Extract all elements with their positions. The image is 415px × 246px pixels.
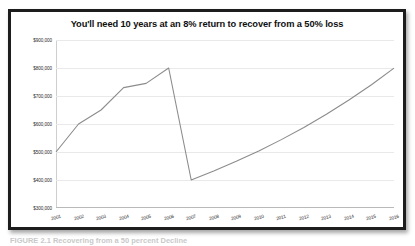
- x-axis-tick-label: 2014: [343, 214, 354, 222]
- y-axis-tick-label: $500,000: [33, 150, 52, 155]
- x-axis-tick-label: 2007: [186, 214, 197, 222]
- series-line-portfolio-value: [56, 40, 394, 208]
- x-axis-tick-label: 2015: [366, 214, 377, 222]
- figure-frame: You'll need 10 years at an 8% return to …: [8, 9, 406, 230]
- y-axis-tick-label: $800,000: [33, 66, 52, 71]
- figure-caption: FIGURE 2.1 Recovering from a 50 percent …: [10, 236, 310, 245]
- x-axis-tick-label: 2009: [231, 214, 242, 222]
- y-axis-tick-label: $900,000: [33, 38, 52, 43]
- x-axis-tick-label: 2013: [321, 214, 332, 222]
- y-axis-tick-label: $700,000: [33, 94, 52, 99]
- series-line-path: [56, 68, 394, 180]
- x-axis-tick-label: 2008: [208, 214, 219, 222]
- x-axis-tick-label: 2006: [163, 214, 174, 222]
- x-axis-tick-label: 2001: [50, 214, 61, 222]
- x-axis-tick-label: 2012: [298, 214, 309, 222]
- plot-area: $900,000$800,000$700,000$600,000$500,000…: [56, 40, 394, 208]
- x-axis-tick-label: 2002: [73, 214, 84, 222]
- y-axis-tick-label: $400,000: [33, 178, 52, 183]
- x-axis-tick-label: 2010: [253, 214, 264, 222]
- x-axis-tick-label: 2005: [141, 214, 152, 222]
- y-axis-tick-label: $600,000: [33, 122, 52, 127]
- x-axis-tick-label: 2003: [95, 214, 106, 222]
- chart-area: You'll need 10 years at an 8% return to …: [11, 12, 403, 227]
- x-axis-tick-label: 2011: [276, 214, 287, 222]
- screenshot-root: You'll need 10 years at an 8% return to …: [0, 0, 415, 246]
- chart-title: You'll need 10 years at an 8% return to …: [11, 19, 403, 29]
- y-axis-tick-label: $300,000: [33, 206, 52, 211]
- x-axis-tick-label: 2016: [388, 214, 399, 222]
- x-axis-tick-label: 2004: [118, 214, 129, 222]
